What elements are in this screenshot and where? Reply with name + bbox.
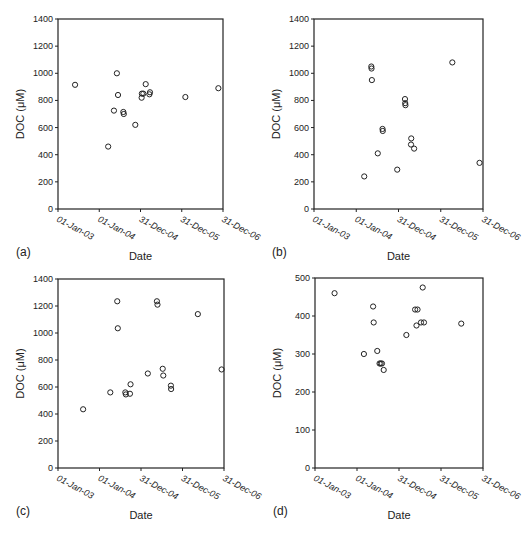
plot-frame xyxy=(58,279,224,468)
y-tick-label: 200 xyxy=(294,177,309,187)
scatter-panel-d: 010020030040050001-Jan-0301-Jan-0431-Dec… xyxy=(271,273,522,521)
y-tick-label: 0 xyxy=(48,463,53,473)
y-tick-label: 1200 xyxy=(289,41,309,51)
y-tick-label: 400 xyxy=(38,409,53,419)
data-point xyxy=(332,291,337,296)
y-tick-label: 1200 xyxy=(33,41,53,51)
data-point xyxy=(155,302,160,307)
y-tick-label: 1000 xyxy=(33,68,53,78)
y-tick-label: 1400 xyxy=(289,14,309,24)
y-tick-label: 1400 xyxy=(33,14,53,24)
y-tick-label: 800 xyxy=(38,95,53,105)
data-point xyxy=(114,71,119,76)
y-tick-label: 800 xyxy=(38,355,53,365)
panel-label: (b) xyxy=(272,245,287,259)
panel-label: (c) xyxy=(16,504,30,518)
y-tick-label: 300 xyxy=(295,349,310,359)
scatter-panel-b: 020040060080010001200140001-Jan-0301-Jan… xyxy=(270,14,522,262)
y-tick-label: 400 xyxy=(294,150,309,160)
data-point xyxy=(195,312,200,317)
y-tick-label: 0 xyxy=(304,204,309,214)
data-point xyxy=(404,332,409,337)
data-point xyxy=(371,320,376,325)
data-point xyxy=(160,366,165,371)
x-tick-label: 31-Dec-06 xyxy=(220,214,262,243)
x-tick-label: 01-Jan-03 xyxy=(312,473,352,501)
plot-frame xyxy=(58,19,223,209)
y-axis-label: DOC (μM) xyxy=(14,348,26,398)
x-tick-label: 31-Dec-06 xyxy=(480,214,522,243)
y-axis-label: DOC (μM) xyxy=(14,89,26,139)
y-tick-label: 0 xyxy=(305,463,310,473)
data-point xyxy=(115,92,120,97)
data-point xyxy=(145,371,150,376)
y-tick-label: 0 xyxy=(48,204,53,214)
plot-frame xyxy=(315,278,483,468)
data-point xyxy=(369,77,374,82)
data-point xyxy=(106,144,111,149)
data-point xyxy=(459,321,464,326)
y-tick-label: 600 xyxy=(38,382,53,392)
data-point xyxy=(420,285,425,290)
data-point xyxy=(216,86,221,91)
data-point xyxy=(115,299,120,304)
y-tick-label: 200 xyxy=(38,436,53,446)
data-point xyxy=(412,146,417,151)
data-point xyxy=(72,82,77,87)
x-tick-label: 31-Dec-06 xyxy=(480,473,522,502)
data-point xyxy=(375,151,380,156)
data-point xyxy=(183,94,188,99)
x-tick-label: 01-Jan-03 xyxy=(55,214,95,242)
x-tick-label: 01-Jan-03 xyxy=(55,473,95,501)
data-point xyxy=(450,60,455,65)
data-point xyxy=(477,160,482,165)
x-tick-label: 31-Dec-04 xyxy=(138,473,180,502)
x-tick-label: 31-Dec-05 xyxy=(180,473,223,502)
panel-label: (a) xyxy=(16,245,31,259)
x-tick-label: 31-Dec-05 xyxy=(438,473,481,502)
y-tick-label: 800 xyxy=(294,95,309,105)
data-point xyxy=(143,82,148,87)
data-point xyxy=(395,167,400,172)
x-axis-label: Date xyxy=(129,509,152,521)
x-tick-label: 01-Jan-04 xyxy=(353,214,393,242)
x-tick-label: 01-Jan-04 xyxy=(354,473,394,501)
y-axis-label: DOC (μM) xyxy=(270,89,282,139)
figure-canvas: 020040060080010001200140001-Jan-0301-Jan… xyxy=(0,0,532,533)
panel-label: (d) xyxy=(273,504,288,518)
data-point xyxy=(111,108,116,113)
plot-frame xyxy=(314,19,483,209)
data-point xyxy=(81,407,86,412)
data-point xyxy=(169,386,174,391)
data-point xyxy=(115,326,120,331)
x-tick-label: 31-Dec-06 xyxy=(221,473,263,502)
scatter-panel-a: 020040060080010001200140001-Jan-0301-Jan… xyxy=(14,14,262,262)
x-axis-label: Date xyxy=(387,250,410,262)
x-tick-label: 31-Dec-05 xyxy=(438,214,481,243)
x-axis-label: Date xyxy=(387,509,410,521)
y-tick-label: 200 xyxy=(295,387,310,397)
x-tick-label: 31-Dec-04 xyxy=(396,214,438,243)
x-tick-label: 31-Dec-05 xyxy=(179,214,222,243)
y-tick-label: 600 xyxy=(38,123,53,133)
data-point xyxy=(371,304,376,309)
y-tick-label: 1000 xyxy=(33,328,53,338)
y-tick-label: 400 xyxy=(295,311,310,321)
y-tick-label: 400 xyxy=(38,150,53,160)
x-tick-label: 31-Dec-04 xyxy=(138,214,180,243)
y-tick-label: 600 xyxy=(294,123,309,133)
data-point xyxy=(161,373,166,378)
data-point xyxy=(128,382,133,387)
y-tick-label: 1200 xyxy=(33,301,53,311)
x-tick-label: 01-Jan-04 xyxy=(97,473,137,501)
y-tick-label: 1000 xyxy=(289,68,309,78)
x-tick-label: 01-Jan-04 xyxy=(96,214,136,242)
data-point xyxy=(361,351,366,356)
data-point xyxy=(409,136,414,141)
data-point xyxy=(362,174,367,179)
data-point xyxy=(375,348,380,353)
data-point xyxy=(133,122,138,127)
x-tick-label: 01-Jan-03 xyxy=(311,214,351,242)
y-tick-label: 200 xyxy=(38,177,53,187)
x-axis-label: Date xyxy=(129,250,152,262)
